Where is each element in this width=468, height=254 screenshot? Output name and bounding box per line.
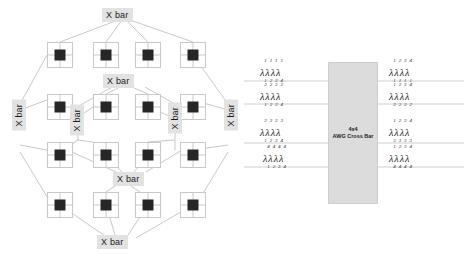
node-core (55, 102, 66, 113)
lambda-glyph: λ (263, 153, 267, 164)
lambda-glyph: λ (260, 67, 264, 78)
awg-size-label: 4x4 (348, 126, 357, 133)
lambda-symbol: λ44 (405, 148, 409, 166)
lambda-glyph: λ (265, 67, 269, 78)
lambda-superscript: 4 (409, 58, 412, 63)
switch-node[interactable] (47, 42, 73, 68)
xbar-label-upper-middle[interactable]: X bar (103, 74, 134, 88)
lambda-glyph: λ (394, 67, 398, 78)
node-core (101, 150, 112, 161)
lambda-symbol: λ24 (276, 86, 280, 104)
xbar-label-bottom[interactable]: X bar (97, 235, 128, 249)
awg-cross-bar-block[interactable]: 4x4 AWG Cross Bar (328, 62, 378, 204)
lambda-symbol: λ22 (394, 86, 398, 104)
output-lambda-group-1: λ11λ21λ31λ41 (389, 62, 410, 80)
lambda-glyph: λ (276, 127, 280, 138)
switch-node[interactable] (135, 192, 161, 218)
lambda-glyph: λ (394, 127, 398, 138)
lambda-symbol: λ42 (268, 148, 272, 166)
node-core (55, 50, 66, 61)
lambda-symbol: λ14 (389, 148, 393, 166)
switch-node[interactable] (180, 94, 206, 120)
lambda-superscript: 2 (280, 82, 283, 87)
switch-node[interactable] (93, 42, 119, 68)
lambda-symbol: λ33 (400, 122, 404, 140)
node-core (101, 102, 112, 113)
lambda-superscript: 4 (283, 144, 286, 149)
lambda-symbol: λ23 (394, 122, 398, 140)
node-core (143, 102, 154, 113)
xbar-label-top[interactable]: X bar (102, 8, 133, 22)
lambda-subscript: 4 (280, 138, 283, 143)
node-core (188, 200, 199, 211)
xbar-label-left[interactable]: X bar (12, 100, 26, 131)
awg-title-label: AWG Cross Bar (333, 133, 374, 140)
lambda-glyph: λ (405, 127, 409, 138)
output-lambda-group-2: λ12λ22λ32λ42 (389, 86, 410, 104)
lambda-symbol: λ42 (405, 86, 409, 104)
switch-node[interactable] (93, 142, 119, 168)
lambda-subscript: 4 (283, 164, 286, 169)
switch-node[interactable] (180, 42, 206, 68)
lambda-symbol: λ14 (276, 62, 280, 80)
lambda-symbol: λ31 (260, 122, 264, 140)
lambda-glyph: λ (405, 67, 409, 78)
lambda-symbol: λ12 (389, 86, 393, 104)
lambda-glyph: λ (389, 127, 393, 138)
awg-crossbar-panel: 4x4 AWG Cross Bar λ11λ12λ13λ14 λ21λ22λ23… (238, 0, 468, 254)
xbar-label-inner-left[interactable]: X bar (70, 105, 84, 136)
lambda-glyph: λ (271, 91, 275, 102)
lambda-symbol: λ33 (271, 122, 275, 140)
input-lambda-group-4: λ41λ42λ43λ44 (263, 148, 284, 166)
node-core (143, 50, 154, 61)
lambda-superscript: 4 (409, 144, 412, 149)
xbar-label-lower-middle[interactable]: X bar (113, 172, 144, 186)
switch-node[interactable] (180, 192, 206, 218)
node-core (143, 150, 154, 161)
lambda-glyph: λ (394, 91, 398, 102)
switch-node[interactable] (180, 142, 206, 168)
input-lambda-group-3: λ31λ32λ33λ34 (260, 122, 281, 140)
lambda-symbol: λ31 (400, 62, 404, 80)
lambda-glyph: λ (400, 91, 404, 102)
node-core (101, 50, 112, 61)
lambda-symbol: λ21 (394, 62, 398, 80)
switch-node[interactable] (93, 192, 119, 218)
switch-node[interactable] (47, 142, 73, 168)
switch-node[interactable] (135, 94, 161, 120)
lambda-symbol: λ13 (389, 122, 393, 140)
lambda-symbol: λ13 (271, 62, 275, 80)
lambda-glyph: λ (389, 91, 393, 102)
lambda-glyph: λ (279, 153, 283, 164)
node-core (55, 200, 66, 211)
lambda-symbol: λ32 (400, 86, 404, 104)
lambda-superscript: 3 (280, 118, 283, 123)
switch-node[interactable] (93, 94, 119, 120)
lambda-glyph: λ (271, 127, 275, 138)
xbar-label-inner-right[interactable]: X bar (168, 103, 182, 134)
lambda-subscript: 4 (409, 164, 412, 169)
lambda-symbol: λ41 (263, 148, 267, 166)
lambda-glyph: λ (268, 153, 272, 164)
lambda-glyph: λ (400, 67, 404, 78)
lambda-subscript: 4 (280, 102, 283, 107)
node-core (188, 150, 199, 161)
xbar-mesh-panel: X bar X bar X bar X bar X bar X bar X ba… (0, 0, 238, 254)
lambda-symbol: λ12 (265, 62, 269, 80)
switch-node[interactable] (47, 192, 73, 218)
lambda-symbol: λ32 (265, 122, 269, 140)
switch-node[interactable] (135, 142, 161, 168)
switch-node[interactable] (135, 42, 161, 68)
lambda-symbol: λ11 (260, 62, 264, 80)
lambda-subscript: 2 (409, 102, 412, 107)
lambda-symbol: λ41 (405, 62, 409, 80)
lambda-glyph: λ (265, 127, 269, 138)
lambda-symbol: λ22 (265, 86, 269, 104)
lambda-glyph: λ (274, 153, 278, 164)
node-core (55, 150, 66, 161)
lambda-subscript: 3 (409, 138, 412, 143)
lambda-symbol: λ11 (389, 62, 393, 80)
lambda-glyph: λ (276, 91, 280, 102)
figure-canvas: X bar X bar X bar X bar X bar X bar X ba… (0, 0, 468, 254)
xbar-label-right[interactable]: X bar (224, 100, 238, 131)
